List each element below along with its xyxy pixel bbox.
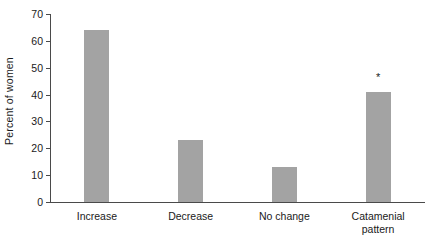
bar <box>84 30 109 202</box>
y-tick-mark <box>46 148 50 149</box>
bar <box>178 140 203 202</box>
bar-chart-figure: Percent of women 010203040506070 * Incre… <box>0 0 429 244</box>
y-tick-label: 50 <box>31 62 43 74</box>
y-tick-label: 20 <box>31 142 43 154</box>
x-tick-label: Decrease <box>144 210 238 223</box>
y-tick-mark <box>46 68 50 69</box>
y-tick-mark <box>46 95 50 96</box>
y-tick-mark <box>46 175 50 176</box>
y-axis-title: Percent of women <box>0 0 18 202</box>
y-tick-mark <box>46 41 50 42</box>
y-tick-label: 0 <box>37 196 43 208</box>
y-tick-label: 60 <box>31 35 43 47</box>
y-tick-label: 30 <box>31 115 43 127</box>
x-tick-label: No change <box>238 210 332 223</box>
y-tick-label: 40 <box>31 89 43 101</box>
significance-asterisk: * <box>376 72 380 83</box>
y-tick-mark <box>46 14 50 15</box>
y-tick-label: 10 <box>31 169 43 181</box>
x-axis-line <box>50 202 425 203</box>
x-tick-label: Catamenial pattern <box>331 210 425 236</box>
y-axis-line <box>50 14 51 202</box>
y-tick-mark <box>46 202 50 203</box>
plot-area: 010203040506070 * IncreaseDecreaseNo cha… <box>50 14 425 202</box>
y-tick-label: 70 <box>31 8 43 20</box>
bar <box>366 92 391 202</box>
bar <box>272 167 297 202</box>
y-axis-title-text: Percent of women <box>3 57 15 145</box>
x-tick-label: Increase <box>50 210 144 223</box>
y-tick-mark <box>46 121 50 122</box>
